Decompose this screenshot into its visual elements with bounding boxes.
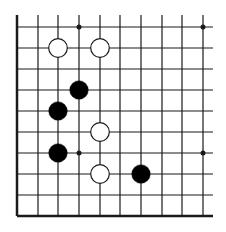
black-stone [49,144,68,163]
black-stone [70,81,89,100]
white-stone [49,39,68,58]
star-point [201,25,206,30]
white-stone [91,39,110,58]
star-point [77,151,82,156]
white-stone [91,165,110,184]
board-grid [17,15,213,216]
black-stone [132,165,151,184]
white-stone [91,123,110,142]
star-point [77,25,82,30]
star-point [201,151,206,156]
go-board [0,0,226,232]
black-stone [49,102,68,121]
